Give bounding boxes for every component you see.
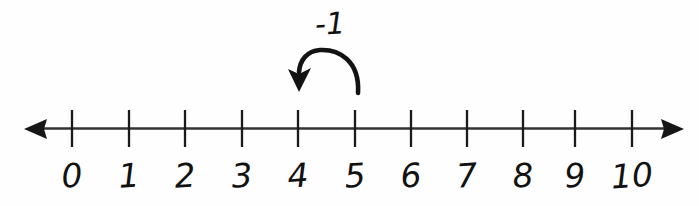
jump-arrow-group bbox=[288, 50, 358, 93]
tick-label-2: 2 bbox=[173, 155, 197, 195]
number-line-diagram: -1 012345678910 bbox=[0, 0, 699, 206]
arrow-right-icon bbox=[661, 119, 684, 139]
jump-label: -1 bbox=[314, 5, 346, 42]
tick-label-6: 6 bbox=[399, 155, 423, 195]
tick-label-5: 5 bbox=[343, 155, 367, 195]
tick-label-0: 0 bbox=[60, 155, 84, 195]
tick-label-9: 9 bbox=[563, 155, 587, 195]
tick-label-1: 1 bbox=[117, 155, 141, 195]
arrow-left-icon bbox=[24, 119, 47, 139]
tick-label-4: 4 bbox=[286, 155, 310, 195]
tick-label-10: 10 bbox=[610, 155, 655, 197]
tick-label-8: 8 bbox=[511, 155, 535, 195]
tick-label-3: 3 bbox=[230, 155, 254, 195]
tick-label-7: 7 bbox=[455, 155, 479, 195]
